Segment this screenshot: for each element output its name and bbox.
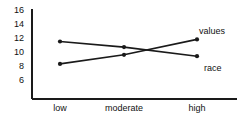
data-point-marker xyxy=(58,39,62,43)
series-layer xyxy=(58,37,199,66)
line-chart: 16 14 12 10 8 6 low moderate high values… xyxy=(0,0,242,123)
plot-area xyxy=(0,0,242,123)
data-point-marker xyxy=(122,45,126,49)
data-point-marker xyxy=(195,54,199,58)
data-point-marker xyxy=(122,53,126,57)
data-point-marker xyxy=(58,62,62,66)
data-point-marker xyxy=(195,37,199,41)
